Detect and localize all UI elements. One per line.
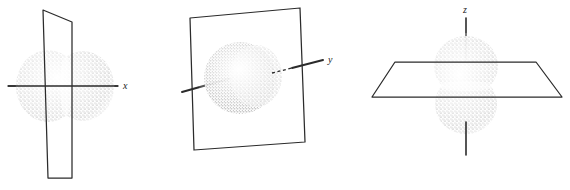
panel-pz: z <box>372 4 562 155</box>
y-axis-label: y <box>327 54 333 65</box>
panel-py: y <box>182 8 333 150</box>
panel-px: x <box>8 10 128 178</box>
py-electron-cloud <box>198 34 294 122</box>
py-cloud-fade <box>198 34 294 122</box>
figure-canvas: x y <box>0 0 570 190</box>
pz-nodal-gap <box>438 81 494 91</box>
orbital-figure: x y <box>0 0 570 190</box>
z-axis-label: z <box>462 4 467 15</box>
x-axis-label: x <box>122 80 128 91</box>
y-axis-back <box>292 60 323 68</box>
